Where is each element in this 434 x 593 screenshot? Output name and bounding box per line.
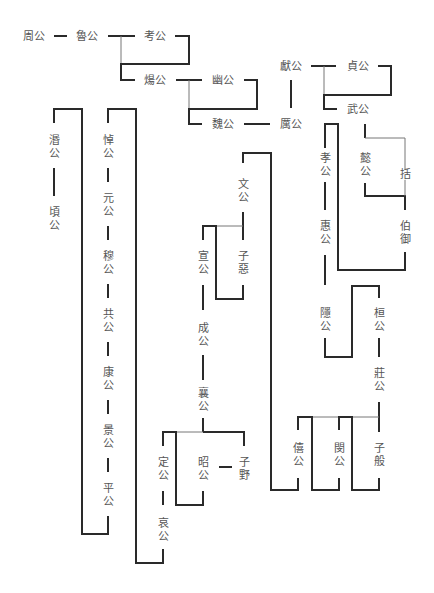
node-kanggong: 康公 [102,366,115,392]
node-kuo: 括 [399,168,412,181]
node-weigong: 魏公 [212,118,234,131]
node-yingong: 隱公 [319,307,332,333]
node-ligong: 厲公 [280,118,302,131]
node-xiaogong: 孝公 [319,152,332,178]
node-zhuanggong: 莊公 [373,367,386,393]
node-huigong: 惠公 [319,220,332,246]
node-xianggong: 襄公 [197,387,210,413]
node-ziban: 子般 [373,442,386,468]
node-zhengong: 貞公 [347,60,369,73]
node-qinggong: 頃公 [48,206,61,232]
node-yanggong: 煬公 [144,74,166,87]
node-yougong: 幽公 [212,74,234,87]
node-zhaogong: 昭公 [197,456,210,482]
node-ziye: 子野 [238,456,251,482]
node-kaogong: 考公 [144,30,166,43]
node-mingong-lu: 湣公 [48,134,61,160]
node-xiangong: 獻公 [280,60,302,73]
node-mingong: 閔公 [333,442,346,468]
node-lugong: 魯公 [76,30,98,43]
node-boyu: 伯御 [399,220,412,246]
node-huangong: 桓公 [373,307,386,333]
node-dinggong: 定公 [157,456,170,482]
node-ziwu: 子惡 [237,250,250,276]
node-yigong: 懿公 [359,152,372,178]
node-gonggong: 共公 [102,308,115,334]
node-pinggong: 平公 [102,482,115,508]
node-daogong: 悼公 [102,134,115,160]
node-aigong: 哀公 [157,517,170,543]
node-zhougong: 周公 [23,30,45,43]
genealogy-diagram: 周公 魯公 考公 煬公 幽公 魏公 厲公 獻公 貞公 武公 孝公 懿公 括 伯御… [0,0,434,593]
node-chenggong: 成公 [197,322,210,348]
connector-lines [0,0,434,593]
node-wugong: 武公 [347,103,369,116]
node-yuangong: 元公 [102,192,115,218]
node-jinggong: 景公 [102,424,115,450]
node-wengong: 文公 [237,178,250,204]
node-mugong: 穆公 [102,250,115,276]
node-xuangong: 宣公 [197,250,210,276]
node-xigong: 僖公 [292,442,305,468]
